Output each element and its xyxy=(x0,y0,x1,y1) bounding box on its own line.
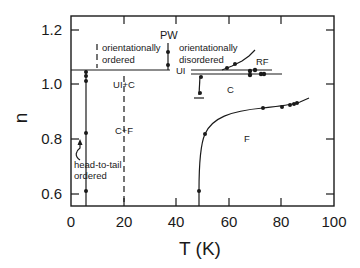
rf-point xyxy=(248,69,252,73)
label-rf: RF xyxy=(256,56,269,67)
f-boundary-curve xyxy=(199,98,309,206)
y-tick-label: 0.6 xyxy=(41,185,62,202)
y-tick-label: 0.8 xyxy=(41,130,62,147)
y-axis-title: n xyxy=(10,113,31,124)
x-tick-label: 20 xyxy=(116,213,133,230)
x-tick-label: 60 xyxy=(221,213,238,230)
label-pw: PW xyxy=(160,29,178,41)
label-ui: UI xyxy=(176,65,186,76)
label-disordered: disordered xyxy=(179,54,224,65)
label-c: C xyxy=(227,84,234,95)
phase-diagram-chart: 1.2 1.0 0.8 0.6 0 20 40 60 80 100 T (K) … xyxy=(0,0,360,268)
label-f: F xyxy=(244,133,250,144)
label-c-f: C+F xyxy=(115,125,133,136)
label-ordered: ordered xyxy=(102,54,135,65)
label-orient-disordered: orientationally xyxy=(179,42,238,53)
x-tick-label: 40 xyxy=(168,213,185,230)
x-tick-label: 100 xyxy=(321,213,346,230)
y-tick-label: 1.2 xyxy=(41,21,62,38)
label-head-to-tail: head-to-tail xyxy=(74,159,122,170)
x-axis-title: T (K) xyxy=(179,238,221,259)
x-tick-label: 0 xyxy=(67,213,75,230)
y-tick-label: 1.0 xyxy=(41,75,62,92)
x-tick-label: 80 xyxy=(273,213,290,230)
label-ui-c: UI+C xyxy=(113,79,135,90)
label-orient-ordered: orientationally xyxy=(102,42,161,53)
label-htt-ordered: ordered xyxy=(74,170,107,181)
